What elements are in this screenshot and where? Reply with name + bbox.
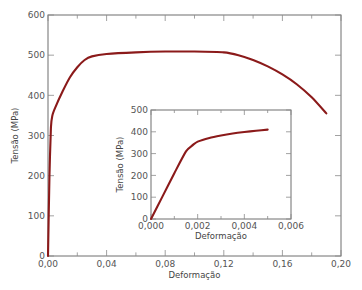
x-tick-label: 0,004 bbox=[231, 221, 257, 231]
y-tick-label: 0 bbox=[142, 214, 148, 224]
y-tick-label: 500 bbox=[131, 105, 148, 115]
y-tick-label: 100 bbox=[131, 192, 148, 202]
x-tick-label: 0,04 bbox=[97, 259, 117, 269]
y-tick-label: 300 bbox=[28, 131, 45, 141]
y-axis-label: Tensão (MPa) bbox=[10, 108, 20, 165]
y-tick-label: 400 bbox=[28, 91, 45, 101]
y-tick-label: 0 bbox=[39, 251, 45, 261]
x-tick-label: 0,16 bbox=[272, 259, 292, 269]
y-tick-label: 200 bbox=[28, 171, 45, 181]
x-tick-label: 0,20 bbox=[331, 259, 351, 269]
y-tick-label: 100 bbox=[28, 211, 45, 221]
x-tick-label: 0,002 bbox=[185, 221, 211, 231]
inset-plot: 0,0000,0020,0040,0060100200300400500Defo… bbox=[115, 105, 304, 241]
stress-strain-figure: 0,000,040,080,120,160,200100200300400500… bbox=[0, 0, 362, 290]
y-tick-label: 300 bbox=[131, 149, 148, 159]
x-tick-label: 0,08 bbox=[155, 259, 175, 269]
x-tick-label: 0,006 bbox=[278, 221, 304, 231]
y-tick-label: 500 bbox=[28, 50, 45, 60]
y-tick-label: 600 bbox=[28, 10, 45, 20]
x-axis-label: Deformação bbox=[195, 231, 247, 241]
y-axis-label: Tensão (MPa) bbox=[115, 137, 125, 194]
x-axis-label: Deformação bbox=[169, 270, 221, 280]
inset-background bbox=[151, 110, 291, 219]
x-tick-label: 0,12 bbox=[214, 259, 234, 269]
y-tick-label: 200 bbox=[131, 171, 148, 181]
y-tick-label: 400 bbox=[131, 127, 148, 137]
